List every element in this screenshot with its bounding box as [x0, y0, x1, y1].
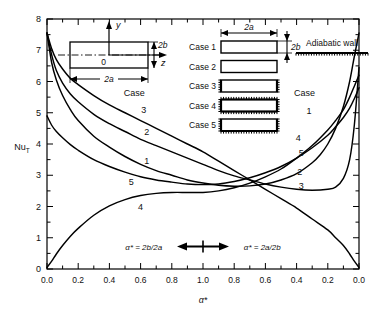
case-duct-rect — [221, 119, 277, 131]
y-tick-label: 2 — [36, 202, 41, 212]
curve-labels: Case32154Case14523 — [124, 88, 315, 212]
y-axis-label: NuT — [14, 142, 30, 154]
duct-2b-label: 2b — [157, 40, 168, 50]
duct-y-label: y — [115, 20, 121, 30]
x-tick-label: 0.4 — [291, 275, 303, 285]
case-legend-item: Case 2 — [189, 61, 277, 73]
curve-label-right: 4 — [296, 133, 301, 143]
case-legend-label: Case 4 — [189, 101, 216, 111]
x-tick-label: 0.2 — [322, 275, 334, 285]
nusselt-number-chart: 0.00.20.40.60.81.00.80.60.40.20.00123456… — [0, 0, 382, 314]
x-tick-label: 0.4 — [103, 275, 115, 285]
x-tick-label: 0.2 — [72, 275, 84, 285]
duct-z-label: z — [160, 58, 166, 68]
x-tick-label: 0.6 — [135, 275, 147, 285]
case-legend-item: Case 3 — [189, 80, 280, 92]
x-tick-label: 0.8 — [228, 275, 240, 285]
curve-label-left: 1 — [144, 156, 149, 166]
curve-label-right: 2 — [297, 167, 302, 177]
curve-label-left: 3 — [141, 105, 146, 115]
case-legend-item: Case 4 — [189, 97, 280, 114]
y-tick-label: 5 — [36, 108, 41, 118]
case-legend-label: Case 2 — [189, 62, 216, 72]
x-tick-label: 0.6 — [259, 275, 271, 285]
curve-label-left: 4 — [138, 202, 143, 212]
case-legend-item: Case 5 — [189, 119, 280, 134]
curve-label-left: Case — [124, 88, 145, 98]
case-legend-item: Case 1 — [189, 41, 277, 53]
plot-frame — [47, 19, 359, 269]
x-axis-label: α* — [199, 295, 208, 305]
duct-2a-label: 2a — [103, 74, 114, 84]
case-duct-rect — [221, 80, 277, 92]
case-duct-rect — [221, 61, 277, 73]
legend-2b-label: 2b — [290, 42, 301, 52]
case-duct-rect — [221, 100, 277, 112]
y-tick-label: 1 — [36, 233, 41, 243]
case-legend: Case 1Case 2Case 3Case 4Case 52a2b — [189, 22, 301, 134]
y-tick-label: 3 — [36, 170, 41, 180]
curve-label-right: 1 — [307, 106, 312, 116]
x-tick-label: 0.8 — [166, 275, 178, 285]
y-tick-label: 0 — [36, 264, 41, 274]
x-tick-label: 1.0 — [197, 275, 209, 285]
curve-label-left: 2 — [144, 127, 149, 137]
alpha-note-right: α* = 2a/2b — [244, 243, 281, 252]
case-legend-label: Case 1 — [189, 42, 216, 52]
case-legend-label: Case 5 — [189, 120, 216, 130]
y-tick-label: 7 — [36, 45, 41, 55]
adiabatic-wall-label: Adiabatic wall — [306, 38, 358, 48]
axis-ticks — [47, 19, 359, 269]
x-tick-label: 0.0 — [353, 275, 365, 285]
y-tick-label: 6 — [36, 77, 41, 87]
legend-2a-label: 2a — [243, 22, 254, 32]
curve-label-left: 5 — [129, 177, 134, 187]
duct-origin-label: 0 — [101, 57, 106, 67]
x-tick-label: 0.0 — [41, 275, 53, 285]
alpha-star-annotation: α* = 2b/2aα* = 2a/2b — [125, 241, 281, 253]
curve-label-right: 3 — [299, 181, 304, 191]
alpha-note-left: α* = 2b/2a — [125, 243, 162, 252]
case-duct-rect — [221, 41, 277, 53]
curve-label-right: 5 — [299, 148, 304, 158]
figure-root: 0.00.20.40.60.81.00.80.60.40.20.00123456… — [0, 0, 382, 314]
adiabatic-wall-annotation: Adiabatic wall — [296, 38, 368, 56]
case-legend-label: Case 3 — [189, 81, 216, 91]
curve-label-right: Case — [294, 88, 315, 98]
y-tick-label: 8 — [36, 14, 41, 24]
curve-case-2 — [47, 33, 359, 190]
inset-duct-diagram: yz02a2b — [58, 20, 168, 84]
y-tick-label: 4 — [36, 139, 41, 149]
